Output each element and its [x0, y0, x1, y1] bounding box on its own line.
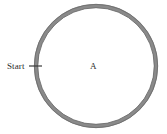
figure-canvas: Start A [0, 0, 167, 134]
region-label-a: A [90, 62, 97, 71]
start-label: Start [7, 62, 25, 71]
circle-diagram-svg [0, 0, 167, 134]
